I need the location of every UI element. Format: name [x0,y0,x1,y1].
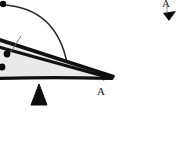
label-corner-a: A [162,0,170,9]
figure-drawing [0,0,177,161]
wedge-lower-bar [0,78,112,80]
fulcrum-triangle [31,84,47,105]
pivot-dot-top [0,1,6,7]
mass-dot-upper [4,51,11,58]
figure-canvas: A A [0,0,177,161]
corner-arrow-marker [163,11,176,21]
label-vertex-a: A [97,86,105,97]
